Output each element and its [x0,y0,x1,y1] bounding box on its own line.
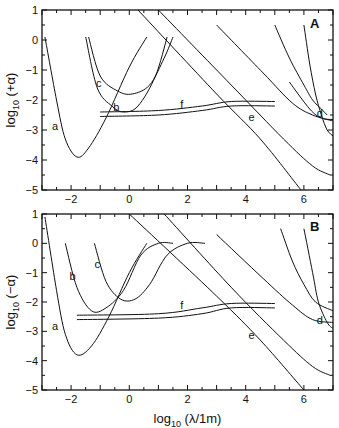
x-tick-label: −2 [65,193,78,205]
x-tick-label: −2 [65,393,78,405]
x-tick-label: 0 [126,193,132,205]
y-tick-label: −3 [25,124,38,136]
curve-label-c: c [95,258,101,270]
curve-e_upper2 [217,235,333,323]
curve-label-d: d [317,314,323,326]
curve-c [94,242,205,301]
curve-f_lower [77,307,275,319]
y-tick-label: 1 [32,208,38,220]
curve-e [138,10,301,190]
y-tick-label: −4 [25,154,38,166]
y-tick-label: −1 [25,267,38,279]
curve-e_upper1 [158,10,330,175]
curve-label-b: b [69,270,75,282]
x-tick-label: 6 [301,193,307,205]
curve-label-a: a [52,320,59,332]
x-tick-label: 6 [301,393,307,405]
curve-f [77,303,275,315]
curve-label-f: f [180,299,184,311]
y-tick-label: 0 [32,34,38,46]
x-axis-title: log10 (λ/1m) [154,411,222,428]
panel-label: B [310,219,319,234]
y-axis-title: log10 (+α) [3,73,21,128]
x-tick-label: 2 [184,393,190,405]
curve-b [65,242,173,312]
y-axis-title: log10 (−α) [3,275,21,330]
y-tick-label: 0 [32,237,38,249]
y-tick-label: −4 [25,355,38,367]
curve-e [129,214,304,390]
y-tick-label: −3 [25,325,38,337]
curve-label-c: c [96,77,102,89]
y-tick-label: −1 [25,64,38,76]
x-tick-label: 0 [126,393,132,405]
chart-canvas: −2024610−1−2−3−4−5log10 (+α)abcdefA−2024… [0,0,339,428]
curve-label-b: b [113,101,119,113]
panel-label: A [310,16,320,31]
y-tick-label: −2 [25,94,38,106]
curve-label-a: a [52,120,59,132]
y-tick-label: 1 [32,4,38,16]
x-tick-label: 4 [243,393,249,405]
y-tick-label: −5 [25,384,38,396]
curve-b [86,37,167,112]
x-tick-label: 2 [184,193,190,205]
panel-A: −2024610−1−2−3−4−5log10 (+α)abcdefA [3,4,333,205]
curve-label-e: e [248,329,254,341]
curve-d [275,25,327,115]
y-tick-label: −2 [25,296,38,308]
curve-e_upper2 [217,25,333,121]
curve-a [45,217,147,355]
curve-a [45,37,147,157]
curve-label-e: e [248,111,254,123]
panel-B: −2024610−1−2−3−4−5log10 (−α)log10 (λ/1m)… [3,208,333,428]
curve-e_upper1 [164,214,330,375]
curve-label-d: d [317,107,323,119]
x-tick-label: 4 [243,193,249,205]
curve-label-f: f [180,98,184,110]
y-tick-label: −5 [25,184,38,196]
